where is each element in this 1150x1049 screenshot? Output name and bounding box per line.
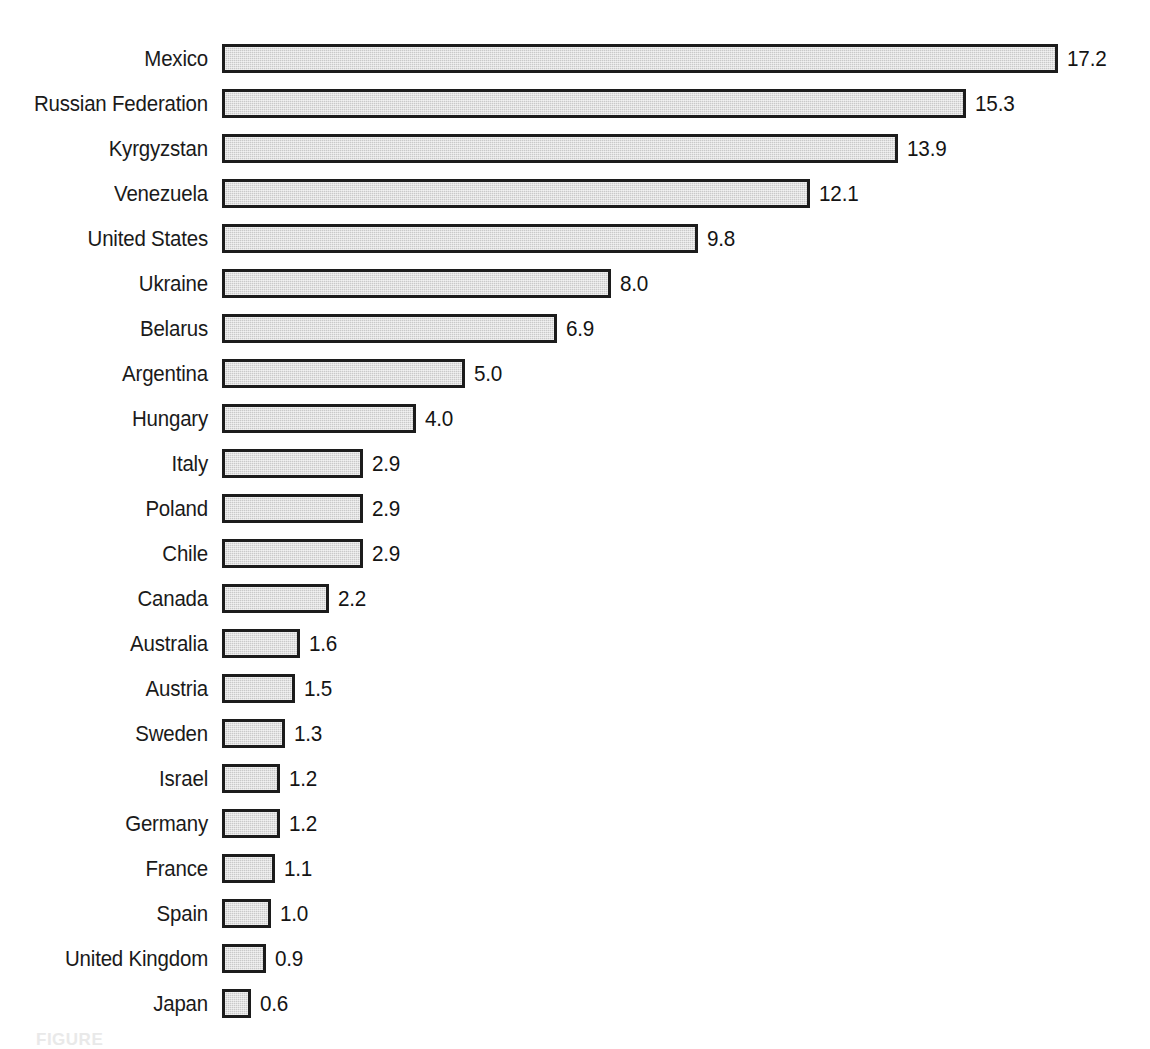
category-label: United Kingdom [15,944,208,973]
bar-value-label: 13.9 [907,134,947,163]
category-label: Venezuela [15,179,208,208]
bar-row: Ukraine8.0 [0,269,1150,298]
bar [222,899,271,928]
bar-row: Austria1.5 [0,674,1150,703]
bar-row: Argentina5.0 [0,359,1150,388]
category-label: Hungary [15,404,208,433]
bar-row: Italy2.9 [0,449,1150,478]
bar-value-label: 1.1 [284,854,312,883]
bar-value-label: 8.0 [620,269,648,298]
bar [222,44,1058,73]
bar-value-label: 1.3 [294,719,322,748]
bar-row: Kyrgyzstan13.9 [0,134,1150,163]
bar-value-label: 2.2 [338,584,366,613]
category-label: Japan [15,989,208,1018]
bar [222,494,363,523]
bar-value-label: 2.9 [372,494,400,523]
bar-row: Australia1.6 [0,629,1150,658]
bar-row: United States9.8 [0,224,1150,253]
bar-row: France1.1 [0,854,1150,883]
bar-value-label: 1.2 [289,764,317,793]
bar-value-label: 0.9 [275,944,303,973]
bar-row: Germany1.2 [0,809,1150,838]
bar-row: United Kingdom0.9 [0,944,1150,973]
bar [222,809,280,838]
bar [222,854,275,883]
bar-value-label: 15.3 [975,89,1015,118]
bar [222,944,266,973]
bar [222,629,300,658]
bar [222,764,280,793]
category-label: Italy [15,449,208,478]
bar-row: Belarus6.9 [0,314,1150,343]
bar-value-label: 4.0 [425,404,453,433]
bar-value-label: 0.6 [260,989,288,1018]
bar-value-label: 2.9 [372,449,400,478]
bar-value-label: 6.9 [566,314,594,343]
bar-value-label: 12.1 [819,179,859,208]
bar-row: Japan0.6 [0,989,1150,1018]
bar [222,404,416,433]
category-label: Kyrgyzstan [15,134,208,163]
bar-row: Spain1.0 [0,899,1150,928]
bar-value-label: 1.5 [304,674,332,703]
bar-value-label: 17.2 [1067,44,1107,73]
bar [222,989,251,1018]
bar [222,179,810,208]
category-label: Austria [15,674,208,703]
category-label: Germany [15,809,208,838]
category-label: Israel [15,764,208,793]
bar [222,674,295,703]
bar [222,269,611,298]
bar-row: Poland2.9 [0,494,1150,523]
bar-row: Venezuela12.1 [0,179,1150,208]
category-label: Canada [15,584,208,613]
bar-row: Mexico17.2 [0,44,1150,73]
category-label: Russian Federation [15,89,208,118]
category-label: Australia [15,629,208,658]
category-label: Chile [15,539,208,568]
category-label: France [15,854,208,883]
bar-value-label: 1.2 [289,809,317,838]
category-label: United States [15,224,208,253]
bar-row: Sweden1.3 [0,719,1150,748]
bar-value-label: 5.0 [474,359,502,388]
bar-row: Chile2.9 [0,539,1150,568]
bar [222,134,898,163]
bar [222,584,329,613]
bar [222,719,285,748]
bar [222,314,557,343]
category-label: Argentina [15,359,208,388]
bar-value-label: 1.0 [280,899,308,928]
bar [222,89,966,118]
bar [222,359,465,388]
category-label: Belarus [15,314,208,343]
bar-value-label: 1.6 [309,629,337,658]
category-label: Ukraine [15,269,208,298]
bar-row: Hungary4.0 [0,404,1150,433]
bar-row: Canada2.2 [0,584,1150,613]
category-label: Mexico [15,44,208,73]
category-label: Spain [15,899,208,928]
bar-value-label: 2.9 [372,539,400,568]
bar [222,539,363,568]
category-label: Sweden [15,719,208,748]
bar-row: Russian Federation15.3 [0,89,1150,118]
category-label: Poland [15,494,208,523]
bar [222,224,698,253]
bar [222,449,363,478]
bar-value-label: 9.8 [707,224,735,253]
figure-caption: FIGURE [36,1030,103,1049]
bar-row: Israel1.2 [0,764,1150,793]
